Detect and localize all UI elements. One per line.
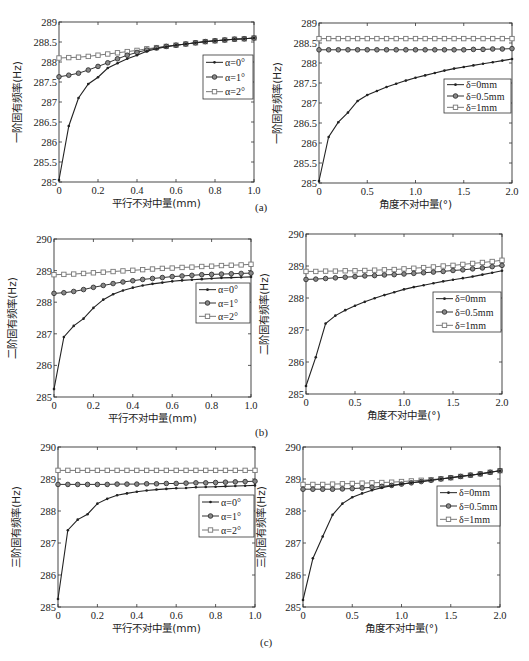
x-tick-label: 1.5 bbox=[457, 186, 470, 197]
x-tick-label: 0.8 bbox=[205, 400, 218, 411]
x-tick-label: 2.0 bbox=[495, 397, 508, 408]
x-tick-label: 0.6 bbox=[169, 185, 182, 196]
y-tick-label: 287 bbox=[301, 98, 317, 109]
y-tick-label: 289 bbox=[36, 266, 52, 277]
x-tick-label: 0 bbox=[303, 397, 308, 408]
y-tick-label: 289 bbox=[285, 474, 301, 485]
legend-entry: δ=0mm bbox=[466, 79, 497, 90]
legend-entry: α=0° bbox=[221, 497, 241, 508]
x-tick-label: 1.0 bbox=[395, 610, 408, 621]
x-axis-label: 平行不对中量(mm) bbox=[108, 412, 197, 424]
y-axis-label: 二阶固有频率(Hz) bbox=[258, 273, 270, 355]
x-tick-label: 0 bbox=[55, 610, 60, 621]
x-axis-label: 平行不对中量(mm) bbox=[112, 622, 201, 634]
y-tick-label: 286 bbox=[40, 570, 56, 581]
y-axis-label: 一阶固有频率(Hz) bbox=[11, 61, 23, 143]
panel-label-c: (c) bbox=[260, 636, 272, 648]
x-tick-label: 0.4 bbox=[130, 185, 144, 196]
x-tick-label: 1.0 bbox=[397, 397, 410, 408]
y-tick-label: 287.5 bbox=[293, 78, 317, 89]
y-tick-label: 286 bbox=[301, 138, 317, 149]
x-axis-label: 角度不对中量(°) bbox=[367, 409, 440, 421]
y-tick-label: 285.5 bbox=[33, 157, 57, 168]
legend-entry: α=1° bbox=[218, 298, 238, 309]
legend-entry: δ=1mm bbox=[459, 514, 490, 525]
y-tick-label: 286 bbox=[41, 137, 57, 148]
y-tick-label: 285 bbox=[41, 177, 57, 188]
legend: α=0°α=1°α=2° bbox=[199, 495, 254, 537]
y-tick-label: 287.5 bbox=[33, 77, 57, 88]
x-tick-label: 0.4 bbox=[126, 400, 140, 411]
y-tick-label: 286.5 bbox=[293, 118, 317, 129]
y-tick-label: 286 bbox=[285, 570, 301, 581]
legend-entry: α=1° bbox=[225, 72, 245, 83]
x-tick-label: 2.0 bbox=[493, 610, 506, 621]
figure: 00.20.40.60.81.0285285.5286286.5287287.5… bbox=[0, 0, 529, 661]
legend-entry: δ=0.5mm bbox=[455, 307, 494, 318]
y-tick-label: 290 bbox=[36, 234, 52, 245]
y-tick-label: 288.5 bbox=[293, 38, 317, 49]
legend-entry: α=1° bbox=[221, 511, 241, 522]
series-0 bbox=[318, 58, 514, 183]
y-tick-label: 288 bbox=[40, 506, 56, 517]
legend: δ=0mmδ=0.5mmδ=1mm bbox=[444, 79, 511, 113]
legend-entry: δ=0mm bbox=[455, 293, 486, 304]
x-tick-label: 1.0 bbox=[409, 186, 422, 197]
legend-entry: δ=0.5mm bbox=[466, 91, 505, 102]
x-axis-label: 角度不对中量(°) bbox=[379, 198, 452, 210]
legend-entry: δ=0mm bbox=[459, 487, 490, 498]
chart-b-right: 00.51.01.52.0285286287288289290角度不对中量(°)… bbox=[258, 229, 509, 421]
y-tick-label: 287 bbox=[285, 538, 301, 549]
x-axis-label: 平行不对中量(mm) bbox=[112, 197, 201, 209]
series-2 bbox=[56, 468, 257, 472]
y-tick-label: 289 bbox=[288, 261, 304, 272]
x-tick-label: 0 bbox=[56, 185, 61, 196]
y-tick-label: 286 bbox=[288, 357, 304, 368]
legend-entry: α=0° bbox=[218, 284, 238, 295]
x-tick-label: 0.2 bbox=[91, 185, 104, 196]
y-tick-label: 290 bbox=[40, 442, 56, 453]
x-tick-label: 0.4 bbox=[130, 610, 144, 621]
y-tick-label: 287 bbox=[40, 538, 56, 549]
y-axis-label: 一阶固有频率(Hz) bbox=[271, 62, 283, 144]
y-tick-label: 287 bbox=[288, 325, 304, 336]
x-tick-label: 0 bbox=[316, 186, 321, 197]
plot-area bbox=[303, 447, 500, 607]
series-1 bbox=[317, 46, 515, 52]
y-tick-label: 290 bbox=[285, 442, 301, 453]
y-axis-label: 三阶固有频率(Hz) bbox=[10, 486, 22, 568]
chart-b-left: 00.20.40.60.81.0285286287288289290平行不对中量… bbox=[6, 234, 258, 424]
y-tick-label: 286.5 bbox=[33, 117, 57, 128]
panel-label-b: (b) bbox=[255, 426, 268, 438]
x-tick-label: 0.6 bbox=[166, 400, 179, 411]
y-tick-label: 286 bbox=[36, 360, 52, 371]
chart-a-right: 00.51.01.52.0285285.5286286.5287287.5288… bbox=[271, 18, 519, 210]
series-2 bbox=[317, 36, 514, 40]
y-tick-label: 287 bbox=[41, 97, 57, 108]
x-tick-label: 0.5 bbox=[346, 610, 359, 621]
y-tick-label: 285 bbox=[288, 389, 304, 400]
y-tick-label: 285.5 bbox=[293, 158, 317, 169]
y-tick-label: 287 bbox=[36, 329, 52, 340]
y-tick-label: 285 bbox=[285, 602, 301, 613]
y-tick-label: 288 bbox=[285, 506, 301, 517]
y-tick-label: 285 bbox=[301, 178, 317, 189]
chart-c-right: 00.51.01.52.0285286287288289290角度不对中量(°)… bbox=[255, 442, 507, 634]
x-axis-label: 角度不对中量(°) bbox=[365, 622, 438, 634]
panel-label-a: (a) bbox=[255, 201, 267, 213]
y-axis-label: 二阶固有频率(Hz) bbox=[6, 277, 18, 359]
x-tick-label: 0.5 bbox=[361, 186, 374, 197]
y-tick-label: 288 bbox=[288, 293, 304, 304]
x-tick-label: 0.2 bbox=[91, 610, 104, 621]
y-tick-label: 290 bbox=[288, 229, 304, 240]
y-tick-label: 285 bbox=[40, 602, 56, 613]
y-tick-label: 289 bbox=[301, 18, 317, 29]
legend: α=0°α=1°α=2° bbox=[203, 55, 253, 99]
x-tick-label: 1.0 bbox=[248, 610, 261, 621]
y-tick-label: 285 bbox=[36, 392, 52, 403]
chart-a-left: 00.20.40.60.81.0285285.5286286.5287287.5… bbox=[11, 17, 261, 209]
y-tick-label: 288 bbox=[301, 58, 317, 69]
legend: δ=0mmδ=0.5mmδ=1mm bbox=[433, 292, 501, 332]
x-tick-label: 2.0 bbox=[505, 186, 518, 197]
y-tick-label: 289 bbox=[41, 17, 57, 28]
